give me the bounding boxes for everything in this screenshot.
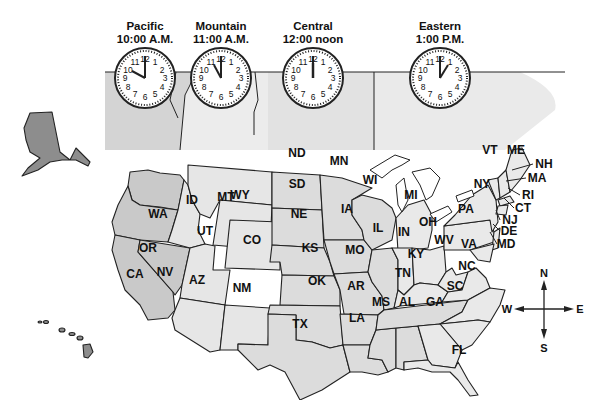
svg-text:MI: MI <box>404 188 417 202</box>
svg-text:12: 12 <box>140 54 150 64</box>
arrow-east-icon <box>564 306 574 312</box>
svg-text:Eastern: Eastern <box>419 20 461 32</box>
svg-text:E: E <box>576 303 583 315</box>
svg-text:11:00 A.M.: 11:00 A.M. <box>193 33 249 45</box>
svg-text:12: 12 <box>308 54 318 64</box>
svg-text:DE: DE <box>501 224 518 238</box>
svg-text:8: 8 <box>421 82 426 92</box>
svg-text:11: 11 <box>299 57 308 67</box>
svg-text:1: 1 <box>321 57 326 67</box>
svg-text:ME: ME <box>507 143 525 157</box>
svg-text:WY: WY <box>230 188 249 202</box>
svg-text:8: 8 <box>202 82 207 92</box>
svg-text:6: 6 <box>311 92 316 102</box>
svg-text:8: 8 <box>294 82 299 92</box>
svg-text:1:00 P.M.: 1:00 P.M. <box>416 33 464 45</box>
svg-text:5: 5 <box>448 89 453 99</box>
svg-text:FL: FL <box>452 343 467 357</box>
svg-text:CO: CO <box>243 233 261 247</box>
svg-text:7: 7 <box>209 89 214 99</box>
svg-text:MS: MS <box>372 295 390 309</box>
svg-text:NC: NC <box>458 259 476 273</box>
svg-text:UT: UT <box>197 224 214 238</box>
svg-text:NM: NM <box>233 281 252 295</box>
svg-text:OH: OH <box>419 215 437 229</box>
svg-text:11: 11 <box>131 57 140 67</box>
svg-text:TN: TN <box>395 266 411 280</box>
svg-text:KS: KS <box>302 241 319 255</box>
compass-rose: N S W E <box>502 267 584 354</box>
svg-text:LA: LA <box>349 311 365 325</box>
svg-text:4: 4 <box>328 82 333 92</box>
arrow-south-icon <box>541 329 547 339</box>
svg-text:4: 4 <box>236 82 241 92</box>
svg-text:WI: WI <box>363 173 378 187</box>
svg-text:8: 8 <box>126 82 131 92</box>
svg-text:7: 7 <box>133 89 138 99</box>
svg-text:4: 4 <box>160 82 165 92</box>
svg-text:ND: ND <box>288 146 306 160</box>
svg-text:TX: TX <box>292 317 307 331</box>
svg-text:SC: SC <box>447 279 464 293</box>
svg-text:10:00 A.M.: 10:00 A.M. <box>117 33 173 45</box>
svg-text:5: 5 <box>153 89 158 99</box>
svg-text:4: 4 <box>455 82 460 92</box>
svg-text:6: 6 <box>219 92 224 102</box>
svg-text:5: 5 <box>321 89 326 99</box>
svg-text:IL: IL <box>373 221 384 235</box>
us-time-zone-map: WA OR CA NV ID MT WY UT CO AZ NM ND SD N… <box>0 0 599 400</box>
svg-text:MO: MO <box>345 243 364 257</box>
svg-text:PA: PA <box>458 202 474 216</box>
svg-text:MD: MD <box>497 237 516 251</box>
svg-text:S: S <box>540 342 547 354</box>
state-az <box>172 298 225 352</box>
arrow-north-icon <box>541 280 547 290</box>
svg-text:AR: AR <box>347 279 365 293</box>
svg-text:1: 1 <box>448 57 453 67</box>
svg-text:11: 11 <box>207 57 216 67</box>
svg-text:12:00 noon: 12:00 noon <box>283 33 344 45</box>
svg-text:Mountain: Mountain <box>195 20 246 32</box>
svg-text:Pacific: Pacific <box>126 20 164 32</box>
svg-text:NH: NH <box>535 157 552 171</box>
svg-text:5: 5 <box>229 89 234 99</box>
svg-text:12: 12 <box>435 54 445 64</box>
svg-text:7: 7 <box>301 89 306 99</box>
svg-text:N: N <box>540 267 548 279</box>
svg-text:12: 12 <box>216 54 226 64</box>
svg-text:VT: VT <box>482 143 498 157</box>
svg-text:IN: IN <box>398 225 410 239</box>
svg-text:SD: SD <box>289 177 306 191</box>
state-nm <box>220 305 270 350</box>
state-alaska <box>22 112 90 176</box>
svg-text:KY: KY <box>408 247 425 261</box>
svg-text:6: 6 <box>438 92 443 102</box>
svg-text:1: 1 <box>153 57 158 67</box>
state-hawaii <box>38 321 93 359</box>
svg-text:11: 11 <box>426 57 435 67</box>
svg-text:IA: IA <box>341 202 353 216</box>
svg-text:AL: AL <box>399 295 415 309</box>
svg-text:NE: NE <box>291 207 308 221</box>
svg-text:NV: NV <box>157 265 174 279</box>
svg-text:VA: VA <box>461 237 477 251</box>
svg-text:ID: ID <box>186 193 198 207</box>
svg-text:CA: CA <box>126 267 144 281</box>
svg-text:7: 7 <box>428 89 433 99</box>
svg-text:RI: RI <box>522 188 534 202</box>
clock-titles: Pacific 10:00 A.M. Mountain 11:00 A.M. C… <box>117 20 464 45</box>
svg-text:WV: WV <box>434 233 453 247</box>
svg-text:MA: MA <box>528 171 547 185</box>
svg-text:GA: GA <box>426 295 444 309</box>
svg-text:NY: NY <box>474 177 491 191</box>
svg-text:MN: MN <box>330 154 349 168</box>
svg-text:Central: Central <box>293 20 333 32</box>
svg-text:AZ: AZ <box>189 273 205 287</box>
arrow-west-icon <box>514 306 524 312</box>
svg-text:OR: OR <box>139 241 157 255</box>
svg-text:OK: OK <box>308 274 326 288</box>
svg-text:1: 1 <box>229 57 234 67</box>
svg-text:6: 6 <box>143 92 148 102</box>
svg-text:W: W <box>502 303 513 315</box>
svg-text:WA: WA <box>148 207 168 221</box>
